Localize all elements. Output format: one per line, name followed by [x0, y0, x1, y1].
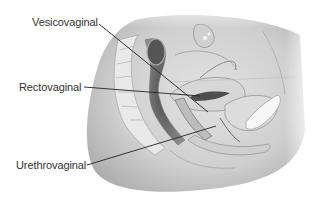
label-vesicovaginal: Vesicovaginal	[32, 17, 98, 28]
label-urethrovaginal: Urethrovaginal	[16, 160, 86, 171]
label-rectovaginal: Rectovaginal	[19, 82, 81, 93]
rectum-lumen	[147, 39, 165, 65]
